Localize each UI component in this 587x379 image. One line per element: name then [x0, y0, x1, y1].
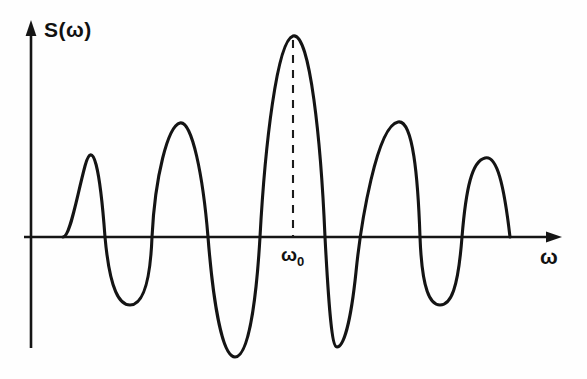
figure-canvas [0, 0, 587, 379]
omega-zero-label: ω0 [281, 244, 304, 269]
x-axis-arrowhead [546, 231, 562, 242]
x-axis-label: ω [540, 245, 558, 269]
y-axis-arrowhead [26, 20, 37, 36]
spectral-density-figure: S(ω) ω ω0 [0, 0, 587, 379]
omega-zero-subscript: 0 [297, 254, 304, 269]
y-axis-label: S(ω) [44, 18, 92, 42]
omega-zero-base: ω [281, 244, 297, 265]
spectral-density-curve [63, 36, 510, 357]
